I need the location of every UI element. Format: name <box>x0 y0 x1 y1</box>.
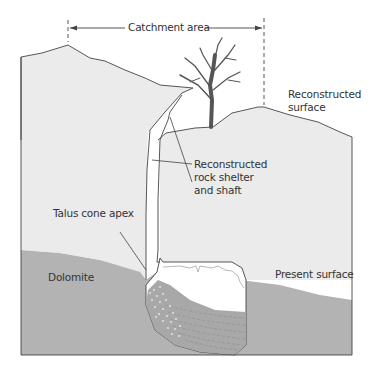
reconstructed-surface-label-line1: Reconstructed <box>288 88 361 100</box>
talus-cone-apex-label: Talus cone apex <box>53 207 134 219</box>
reconstructed-rock-right <box>160 107 352 280</box>
dolomite-label: Dolomite <box>48 271 94 283</box>
catchment-area-label: Catchment area <box>128 21 210 33</box>
rock-shelter-label-line2: rock shelter <box>194 171 254 183</box>
present-surface-label: Present surface <box>275 268 354 280</box>
cave-cross-section-diagram <box>0 0 374 367</box>
rock-shelter-label-line1: Reconstructed <box>194 158 267 170</box>
rock-shelter-label-line3: and shaft <box>194 184 241 196</box>
reconstructed-surface-label-line2: surface <box>288 101 325 113</box>
